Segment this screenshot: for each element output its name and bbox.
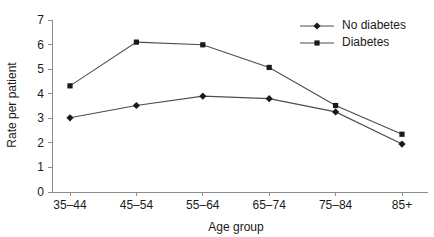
legend-label: No diabetes [342,18,406,32]
legend-marker-diamond [313,22,320,29]
legend-item-1: No diabetes [300,18,406,32]
chart-canvas: 01234567 35–4445–5455–6465–7475–8485+ No… [0,0,434,237]
legend-item-2: Diabetes [300,35,389,49]
x-axis-title: Age group [208,220,264,234]
y-axis-tick-label: 6 [37,38,44,52]
y-axis-tick-label: 4 [37,87,44,101]
x-axis-tick-label: 35–44 [53,198,87,212]
x-axis-tick-label: 65–74 [253,198,287,212]
legend-marker-square [314,40,319,45]
data-point-marker [134,40,139,45]
data-point-marker [199,93,206,100]
series-1 [66,93,405,148]
series-polyline [70,96,402,144]
line-chart-figure: 01234567 35–4445–5455–6465–7475–8485+ No… [0,0,434,237]
y-axis-title: Rate per patient [5,62,19,148]
data-point-marker [133,102,140,109]
data-point-marker [66,114,73,121]
data-point-marker [332,108,339,115]
y-axis-tick-label: 3 [37,111,44,125]
data-point-marker [267,65,272,70]
data-point-marker [67,83,72,88]
data-point-marker [266,95,273,102]
x-axis: 35–4445–5455–6465–7475–8485+ [52,192,428,212]
legend-label: Diabetes [342,35,389,49]
y-axis: 01234567 [37,13,52,199]
x-axis-tick-label: 85+ [392,198,412,212]
series-2 [67,40,404,137]
x-axis-tick-label: 55–64 [186,198,220,212]
data-point-marker [398,140,405,147]
y-axis-tick-label: 0 [37,185,44,199]
data-series-layer [66,40,405,148]
y-axis-tick-label: 7 [37,13,44,27]
data-point-marker [200,42,205,47]
x-axis-tick-label: 75–84 [319,198,353,212]
y-axis-tick-label: 5 [37,62,44,76]
y-axis-tick-label: 1 [37,160,44,174]
x-axis-tick-label: 45–54 [120,198,154,212]
data-point-marker [333,103,338,108]
y-axis-tick-label: 2 [37,136,44,150]
chart-legend: No diabetesDiabetes [300,18,406,49]
data-point-marker [399,132,404,137]
